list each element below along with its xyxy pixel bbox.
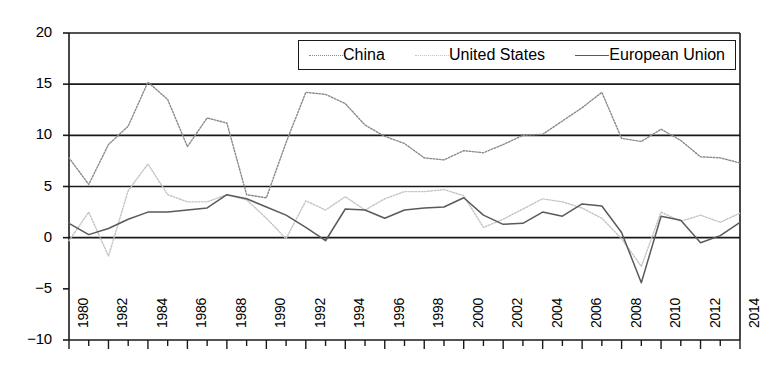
series-line-european-union [69, 195, 740, 283]
x-tick-label: 2004 [549, 298, 565, 328]
y-tick-label: −10 [8, 330, 52, 347]
x-tick-label: 2006 [588, 298, 604, 328]
y-tick-label: −5 [8, 279, 52, 296]
series-line-china [69, 82, 740, 198]
legend-label: European Union [609, 46, 725, 64]
y-tick-label: 15 [8, 74, 52, 91]
legend-entry: United States [415, 46, 545, 64]
legend-entry: China [309, 46, 385, 64]
series-line-united-states [69, 164, 740, 266]
x-tick-label: 1988 [233, 298, 249, 328]
x-axis [69, 340, 740, 349]
y-tick-label: 5 [8, 177, 52, 194]
x-tick-label: 1984 [154, 298, 170, 328]
legend-swatch-icon [309, 49, 343, 61]
x-tick-label: 1994 [351, 298, 367, 328]
x-tick-label: 2000 [470, 298, 486, 328]
x-tick-label: 1992 [312, 298, 328, 328]
y-tick-label: 20 [8, 23, 52, 40]
y-axis [63, 33, 69, 340]
x-tick-label: 1986 [193, 298, 209, 328]
x-tick-label: 2008 [628, 298, 644, 328]
x-tick-label: 2014 [746, 298, 762, 328]
x-tick-label: 2012 [707, 298, 723, 328]
legend-label: United States [449, 46, 545, 64]
x-tick-label: 1980 [75, 298, 91, 328]
legend-swatch-icon [415, 49, 449, 61]
data-series [69, 82, 740, 283]
y-tick-label: 10 [8, 125, 52, 142]
legend-swatch-icon [575, 49, 609, 61]
line-chart: 20151050−5−10 19801982198419861988199019… [0, 0, 776, 365]
chart-legend: ChinaUnited StatesEuropean Union [298, 40, 736, 70]
legend-label: China [343, 46, 385, 64]
x-tick-label: 1996 [391, 298, 407, 328]
legend-entry: European Union [575, 46, 725, 64]
x-tick-label: 1982 [114, 298, 130, 328]
x-tick-label: 1990 [272, 298, 288, 328]
x-tick-label: 2010 [667, 298, 683, 328]
y-tick-label: 0 [8, 228, 52, 245]
x-tick-label: 1998 [430, 298, 446, 328]
x-tick-label: 2002 [509, 298, 525, 328]
